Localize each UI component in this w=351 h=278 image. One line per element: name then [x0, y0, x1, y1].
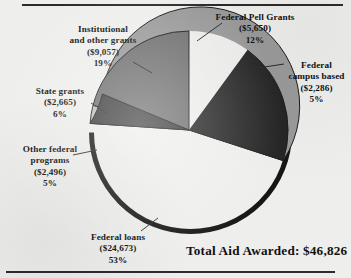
- slice-label-federal-pell-grants: Federal Pell Grants ($5,650) 12%: [196, 12, 314, 46]
- slice-label-federal-loans: Federal loans ($24,673) 53%: [62, 232, 174, 266]
- slice-label-other-federal-programs: Other federal programs ($2,496) 5%: [2, 144, 98, 190]
- slice-label-institutional-and-other-grants: Institutional and other grants ($9,057) …: [44, 24, 162, 70]
- slice-label-state-grants: State grants ($2,665) 6%: [14, 86, 106, 120]
- bottom-divider-rule: [6, 271, 335, 273]
- total-aid-awarded-text: Total Aid Awarded: $46,826: [186, 243, 346, 259]
- pie-chart-figure: Federal Pell Grants ($5,650) 12% Federal…: [0, 0, 351, 278]
- top-divider-rule: [22, 4, 343, 6]
- slice-label-federal-campus-based: Federal campus based ($2,286) 5%: [282, 60, 351, 106]
